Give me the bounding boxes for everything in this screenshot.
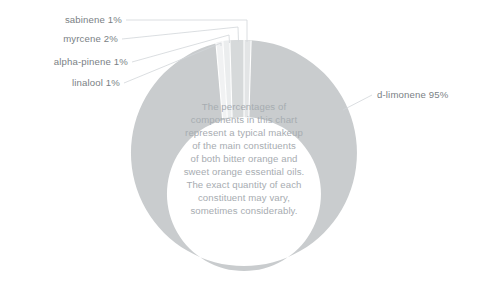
- leader-line-d-limonene: [343, 95, 372, 110]
- label-d-limonene: d-limonene 95%: [377, 89, 449, 100]
- center-note-line-7: The exact quantity of each: [186, 179, 301, 190]
- center-note-line-1: The percentages of: [202, 101, 287, 112]
- center-note-line-2: components in this chart: [191, 114, 298, 125]
- center-note-line-9: sometimes considerably.: [190, 205, 297, 216]
- donut-chart-figure: sabinene 1% myrcene 2% alpha-pinene 1% l…: [0, 0, 488, 283]
- center-note-line-3: represent a typical makeup: [185, 127, 303, 138]
- label-alpha-pinene: alpha-pinene 1%: [54, 56, 129, 67]
- center-note-line-5: of both bitter orange and: [190, 153, 297, 164]
- donut-chart-svg: sabinene 1% myrcene 2% alpha-pinene 1% l…: [0, 0, 488, 283]
- label-linalool: linalool 1%: [72, 77, 120, 88]
- center-note-line-8: constituent may vary,: [198, 192, 290, 203]
- label-myrcene: myrcene 2%: [63, 33, 118, 44]
- center-note: The percentages of components in this ch…: [184, 101, 305, 216]
- label-sabinene: sabinene 1%: [65, 14, 122, 25]
- center-note-line-4: of the main constituents: [192, 140, 296, 151]
- center-note-line-6: sweet orange essential oils.: [184, 166, 305, 177]
- leader-line-myrcene: [122, 27, 239, 42]
- leader-lines-right: [343, 95, 372, 110]
